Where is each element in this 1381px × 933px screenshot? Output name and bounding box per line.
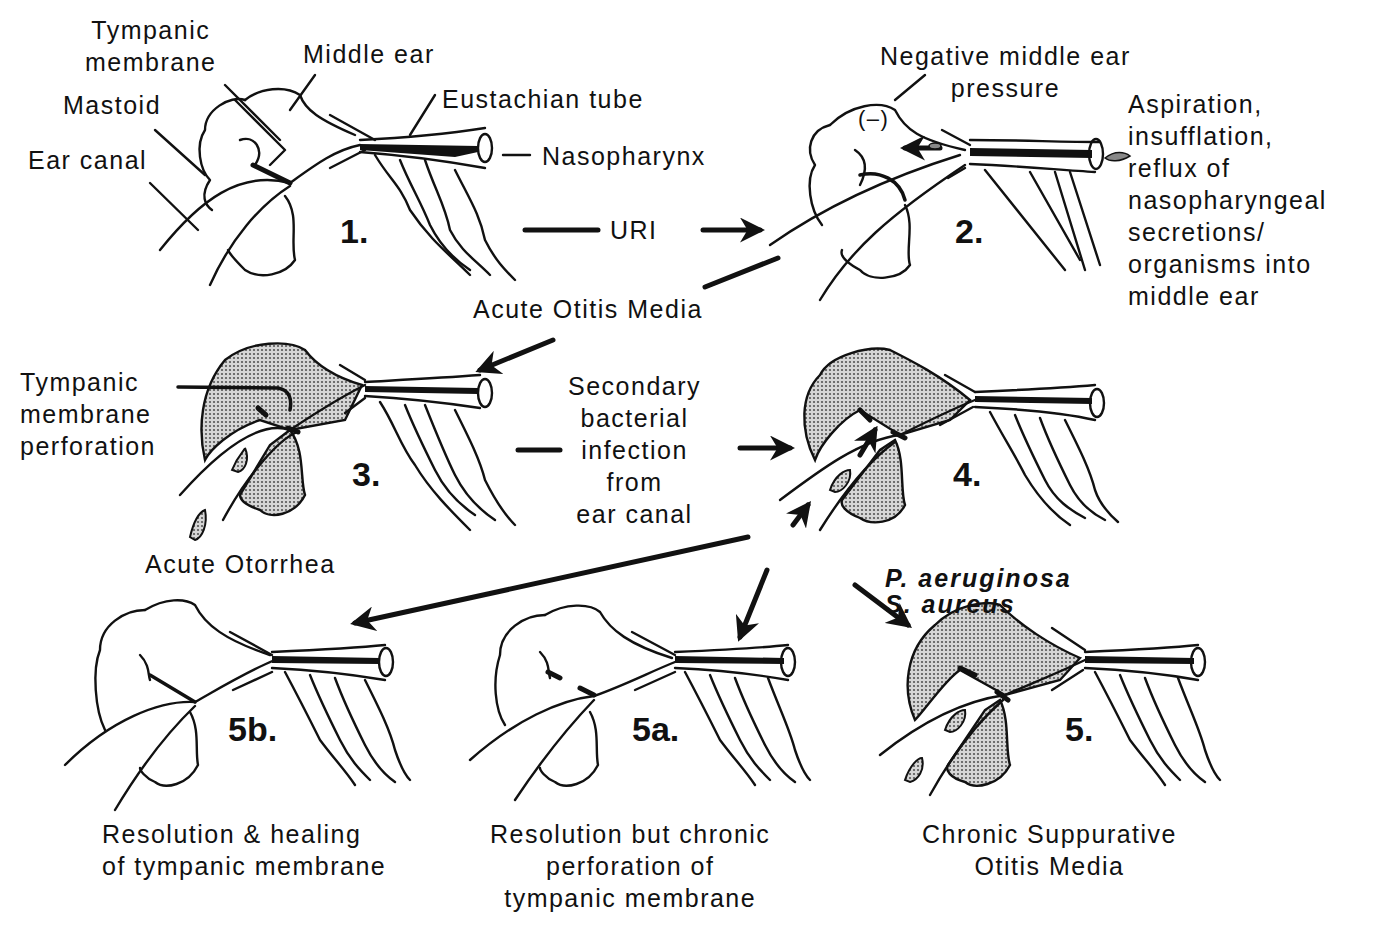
stage-2-number: 2.	[955, 212, 983, 251]
stage-1-number: 1.	[340, 212, 368, 251]
caption-5a: Resolution but chronic perforation of ty…	[490, 818, 770, 914]
label-organisms: P. aeruginosa S. aureus	[885, 565, 1072, 617]
label-middle-ear: Middle ear	[303, 38, 435, 70]
label-eustachian-tube: Eustachian tube	[442, 83, 644, 115]
stage-4-illustration	[780, 349, 1118, 530]
negative-pressure-symbol: (–)	[858, 103, 889, 135]
leader-eustachian-tube	[410, 95, 435, 135]
stage-5b-number: 5b.	[228, 710, 277, 749]
label-uri: URI	[610, 214, 658, 246]
label-acute-otorrhea: Acute Otorrhea	[145, 548, 336, 580]
stage-4-number: 4.	[953, 455, 981, 494]
label-acute-otitis-media: Acute Otitis Media	[473, 293, 703, 325]
arrow-to-5a	[740, 570, 767, 637]
label-ear-canal: Ear canal	[28, 144, 147, 176]
arrow-to-5b	[355, 537, 748, 623]
caption-5: Chronic Suppurative Otitis Media	[922, 818, 1177, 882]
middle-ear-cavity	[240, 139, 259, 165]
stage-5-number: 5.	[1065, 710, 1093, 749]
label-tm-perforation: Tympanic membrane perforation	[20, 366, 156, 462]
label-tympanic-membrane: Tympanic membrane	[85, 14, 217, 78]
stage-5b-illustration	[65, 600, 410, 810]
label-aspiration: Aspiration, insufflation, reflux of naso…	[1128, 88, 1327, 312]
label-nasopharynx: Nasopharynx	[542, 140, 706, 172]
leader-ear-canal	[150, 183, 198, 230]
caption-5b: Resolution & healing of tympanic membran…	[102, 818, 386, 882]
aom-line	[705, 258, 778, 287]
leader-tympanic-membrane	[225, 85, 280, 140]
stage-2-illustration	[770, 75, 1130, 300]
stage-5a-number: 5a.	[632, 710, 679, 749]
label-negative-pressure: Negative middle ear pressure	[880, 40, 1131, 104]
aom-arrow	[480, 340, 553, 370]
label-mastoid: Mastoid	[63, 89, 161, 121]
label-secondary-infection: Secondary bacterial infection from ear c…	[568, 370, 701, 530]
leader-mastoid	[155, 130, 205, 175]
stage-5-illustration	[880, 603, 1220, 795]
stage-5a-illustration	[470, 606, 810, 800]
stage-3-number: 3.	[352, 455, 380, 494]
stage-3-illustration	[178, 343, 515, 540]
